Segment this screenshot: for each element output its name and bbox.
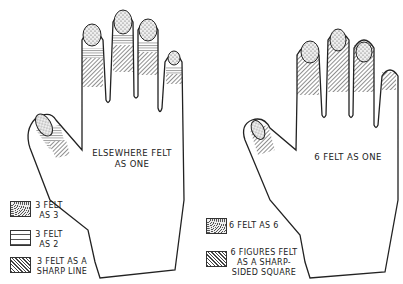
right-hand-label: 6 FELT AS ONE xyxy=(308,152,388,163)
legend-swatch-diagonal-hatch xyxy=(10,257,31,273)
legend-swatch-stipple xyxy=(206,218,227,234)
legend-label: 6 FIGURES FELT AS A SHARP-SIDED SQUARE xyxy=(228,248,300,278)
legend-label: 3 FELT AS A SHARP LINE xyxy=(33,257,91,277)
legend-label: 3 FELT AS 2 xyxy=(33,230,65,250)
legend-swatch-diagonal-hatch xyxy=(206,251,227,267)
left-hand-label: ELSEWHERE FELT AS ONE xyxy=(88,148,176,170)
legend-label: 6 FELT AS 6 xyxy=(229,221,291,231)
legend-swatch-stipple xyxy=(10,201,31,217)
legend-swatch-horizontal-lines xyxy=(10,230,31,246)
legend-label: 3 FELT AS 3 xyxy=(33,201,65,221)
